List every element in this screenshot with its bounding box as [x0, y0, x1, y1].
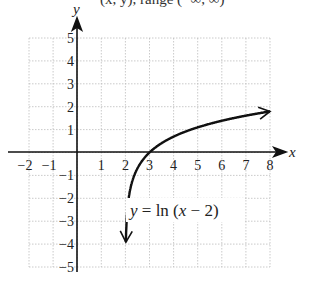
- y-tick-label: 1: [67, 123, 74, 138]
- y-tick-label: −2: [59, 191, 74, 206]
- x-tick-label: 4: [170, 158, 177, 173]
- y-tick-label: −1: [59, 168, 74, 183]
- y-axis-label: y: [71, 1, 80, 17]
- x-axis-label: x: [288, 144, 296, 160]
- y-tick-label: −3: [59, 214, 74, 229]
- axes: [8, 18, 286, 272]
- y-tick-label: −4: [59, 237, 74, 252]
- x-tick-label: 3: [146, 158, 153, 173]
- equation-y: y: [128, 201, 138, 220]
- x-tick-label: −1: [42, 158, 57, 173]
- y-tick-label: 3: [67, 77, 74, 92]
- x-tick-label: 6: [218, 158, 225, 173]
- cropped-top-text: (x, y), range (−∞, ∞): [100, 0, 224, 8]
- equation-end: − 2): [186, 201, 218, 220]
- x-tick-label: 7: [242, 158, 249, 173]
- y-tick-label: 5: [67, 31, 74, 46]
- x-tick-label: 5: [194, 158, 201, 173]
- x-tick-label: 8: [267, 158, 274, 173]
- chart-svg: (x, y), range (−∞, ∞) x y −2−112345678 5…: [0, 0, 310, 285]
- chart-root: (x, y), range (−∞, ∞) x y −2−112345678 5…: [0, 0, 310, 285]
- y-tick-label: 4: [67, 54, 74, 69]
- y-tick-labels: 54321−1−2−3−4−5: [59, 31, 74, 275]
- equation-mid: = ln (: [138, 201, 180, 220]
- x-tick-labels: −2−112345678: [18, 158, 274, 173]
- x-tick-label: 1: [98, 158, 105, 173]
- x-tick-label: 2: [122, 158, 129, 173]
- x-tick-label: −2: [18, 158, 33, 173]
- equation-label: y = ln (x − 2): [128, 201, 219, 220]
- y-tick-label: 2: [67, 100, 74, 115]
- y-tick-label: −5: [59, 260, 74, 275]
